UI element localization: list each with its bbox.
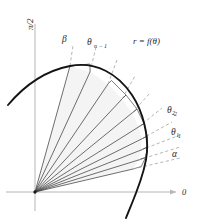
ray-label-beta: β — [61, 34, 67, 44]
ray-label-theta-2-subscript: 2 — [174, 111, 177, 117]
ray-label-theta-n-minus-1-subscript: n − 1 — [94, 43, 107, 49]
origin-point — [33, 190, 36, 193]
curve-equation-label: r = f(θ) — [133, 36, 160, 46]
ray-label-theta-n-minus-1: θ — [87, 37, 92, 47]
vertical-axis-label: π/2 — [25, 18, 35, 30]
vertical-axis-label-group: π/2 — [25, 18, 35, 30]
polar-area-diagram: π/2 0 r = f(θ) β θ n − 1 θ₂ 2 θ₁ 1 α — [0, 0, 200, 223]
ray-label-theta-1-subscript: 1 — [178, 133, 181, 139]
